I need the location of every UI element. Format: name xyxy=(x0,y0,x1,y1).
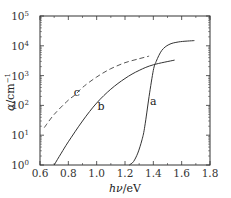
y-axis-ticks: 100101102103104105 xyxy=(11,10,210,171)
y-tick-label: 100 xyxy=(11,159,29,171)
plot-border xyxy=(40,16,210,165)
curve-label-b: b xyxy=(97,100,104,113)
curve-a xyxy=(129,41,194,165)
x-tick-label: 0.8 xyxy=(60,167,77,179)
y-tick-label: 104 xyxy=(11,40,29,52)
y-tick-label: 105 xyxy=(11,10,29,22)
y-tick-label: 103 xyxy=(11,70,29,82)
absorption-chart: 0.60.81.01.21.41.61.8 100101102103104105… xyxy=(0,0,231,198)
curves xyxy=(44,41,194,165)
curve-b xyxy=(54,60,174,165)
curve-labels: abc xyxy=(74,86,157,113)
y-tick-label: 101 xyxy=(11,129,29,141)
plot-frame xyxy=(40,16,210,165)
curve-label-c: c xyxy=(74,86,80,99)
x-tick-label: 1.0 xyxy=(88,167,105,179)
x-tick-label: 0.6 xyxy=(32,167,49,179)
curve-c xyxy=(44,56,149,128)
curve-label-a: a xyxy=(150,95,157,108)
x-axis-title: hν/eV xyxy=(109,182,142,195)
x-tick-label: 1.6 xyxy=(173,167,190,179)
x-tick-label: 1.8 xyxy=(202,167,219,179)
x-tick-label: 1.4 xyxy=(145,167,162,179)
x-tick-label: 1.2 xyxy=(117,167,134,179)
